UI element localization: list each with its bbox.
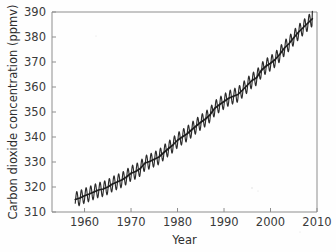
x-tick-label: 1960 [70, 215, 99, 229]
x-tick-label: 1980 [163, 215, 192, 229]
figure-container: 310320330340350360370380390 196019701980… [0, 0, 336, 252]
y-tick-label: 370 [24, 55, 46, 69]
y-tick-label: 340 [24, 130, 46, 144]
x-axis-title: Year [171, 233, 197, 247]
x-tick-label: 1970 [116, 215, 145, 229]
y-tick-label: 310 [24, 205, 46, 219]
x-tick-label: 2010 [302, 215, 331, 229]
x-tick-label: 2000 [256, 215, 285, 229]
y-tick-label: 330 [24, 155, 46, 169]
x-tick-label: 1990 [209, 215, 238, 229]
y-axis-title: Carbon dioxide concentration (ppmv) [6, 4, 20, 219]
y-tick-label: 390 [24, 5, 46, 19]
y-tick-label: 320 [24, 180, 46, 194]
y-tick-label: 360 [24, 80, 46, 94]
y-tick-label: 380 [24, 30, 46, 44]
y-tick-label: 350 [24, 105, 46, 119]
co2-keeling-curve-chart: 310320330340350360370380390 196019701980… [0, 0, 336, 252]
y-axis-tick-labels: 310320330340350360370380390 [24, 5, 46, 219]
